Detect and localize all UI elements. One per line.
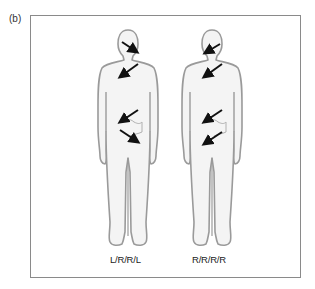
caption-left: L/R/R/L	[110, 254, 141, 265]
body-figure-left	[98, 30, 158, 245]
body-figure-right	[182, 30, 242, 245]
body-diagrams	[0, 0, 315, 289]
caption-right: R/R/R/R	[192, 254, 226, 265]
